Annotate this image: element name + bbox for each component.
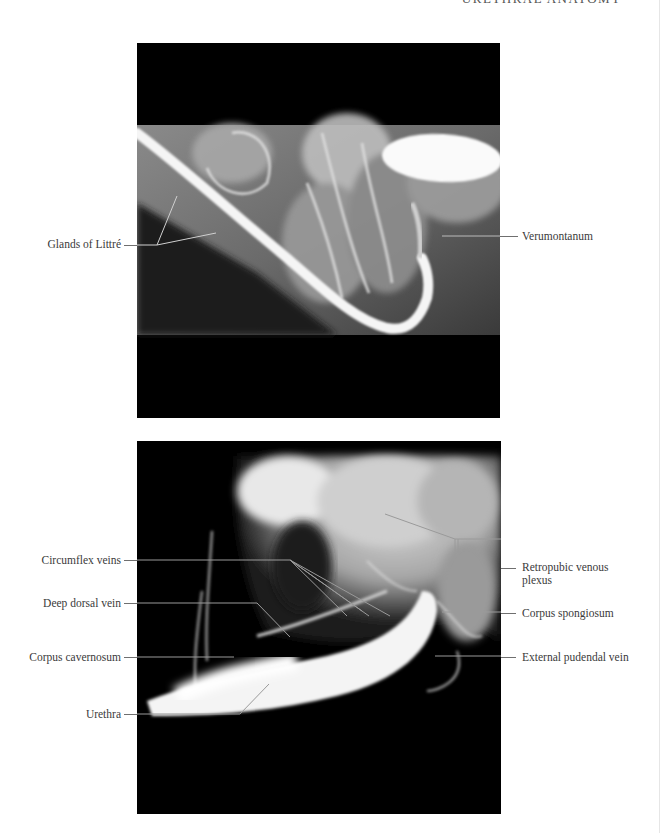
urethrogram-image — [137, 43, 500, 418]
leader-deep-dorsal-vein — [124, 603, 137, 604]
label-urethra: Urethra — [86, 708, 121, 721]
leader-glands-of-littre — [124, 245, 137, 246]
leader-circumflex-veins — [124, 560, 137, 561]
cavernosogram-image — [137, 441, 501, 814]
label-circumflex-veins: Circumflex veins — [41, 554, 121, 567]
label-glands-of-littre: Glands of Littré — [48, 238, 121, 251]
label-retropubic-line2: plexus — [522, 574, 609, 587]
label-retropubic-line1: Retropubic venous — [522, 561, 609, 574]
label-deep-dorsal-vein: Deep dorsal vein — [43, 597, 121, 610]
running-head: URETHRAL ANATOMY — [462, 0, 622, 7]
label-corpus-spongiosum: Corpus spongiosum — [522, 607, 614, 620]
leader-urethra — [124, 714, 137, 715]
leader-retropubic-venous-plexus — [501, 568, 516, 569]
label-retropubic-venous-plexus: Retropubic venous plexus — [522, 561, 609, 587]
label-external-pudendal-vein: External pudendal vein — [522, 651, 629, 664]
page-edge-divider — [659, 0, 660, 833]
label-corpus-cavernosum: Corpus cavernosum — [29, 651, 121, 664]
leader-corpus-cavernosum — [124, 657, 137, 658]
label-verumontanum: Verumontanum — [522, 230, 593, 243]
urethrogram-xray — [137, 43, 500, 418]
cavernosogram-xray — [137, 441, 501, 814]
leader-corpus-spongiosum — [501, 613, 516, 614]
leader-external-pudendal-vein — [501, 657, 516, 658]
leader-verumontanum — [500, 236, 518, 237]
